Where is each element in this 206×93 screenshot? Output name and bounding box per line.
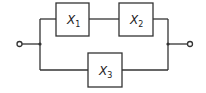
block-diagram: X1 X2 X3 — [0, 0, 206, 93]
left-junction-dot — [38, 42, 41, 45]
right-junction-dot — [166, 42, 169, 45]
label-x3: X3 — [98, 64, 112, 80]
label-x1: X1 — [66, 13, 80, 29]
input-terminal — [17, 42, 22, 47]
label-x2: X2 — [129, 13, 143, 29]
output-terminal — [188, 42, 193, 47]
